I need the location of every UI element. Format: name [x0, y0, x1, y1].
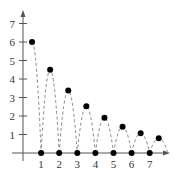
data-points — [29, 39, 162, 156]
peak-point — [47, 67, 53, 73]
axes — [12, 10, 170, 161]
peak-point — [101, 115, 107, 121]
peak-point — [83, 103, 89, 109]
y-tick-label: 2 — [10, 110, 16, 122]
x-tick-label: 3 — [75, 158, 81, 170]
dashed-bounce-curve — [32, 42, 168, 153]
x-tick-label: 4 — [93, 158, 99, 170]
zero-point — [56, 150, 62, 156]
peak-point — [120, 124, 126, 130]
peak-point — [29, 39, 35, 45]
y-tick-label: 1 — [10, 129, 16, 141]
zero-point — [111, 150, 117, 156]
peak-point — [156, 135, 162, 141]
zero-point — [92, 150, 98, 156]
y-tick-label: 5 — [10, 55, 16, 67]
bounce-arc — [32, 42, 168, 153]
x-tick-label: 1 — [38, 158, 44, 170]
y-tick-label: 7 — [10, 18, 16, 30]
y-tick-label: 6 — [10, 36, 16, 48]
y-tick-label: 4 — [10, 73, 16, 85]
zero-point — [129, 150, 135, 156]
zero-point — [38, 150, 44, 156]
x-tick-label: 7 — [147, 158, 153, 170]
x-tick-label: 2 — [56, 158, 62, 170]
peak-point — [138, 130, 144, 136]
y-axis-arrow-icon — [21, 10, 26, 17]
x-axis-arrow-icon — [163, 151, 170, 156]
zero-point — [74, 150, 80, 156]
x-tick-label: 6 — [129, 158, 135, 170]
zero-point — [147, 150, 153, 156]
y-tick-label: 3 — [10, 92, 16, 104]
bounce-chart: 12345671234567 — [0, 0, 190, 180]
x-tick-label: 5 — [111, 158, 117, 170]
peak-point — [65, 88, 71, 94]
